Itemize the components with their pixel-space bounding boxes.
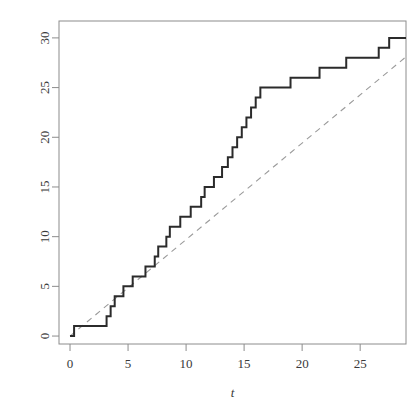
chart-canvas: 0510152025 051015202530 t [0, 0, 420, 410]
figure-panel: 0510152025 051015202530 t [0, 0, 420, 410]
plot-border [59, 21, 406, 344]
y-tick-label: 20 [38, 131, 53, 144]
axis-titles: t [231, 385, 235, 400]
x-tick-label: 5 [125, 356, 132, 371]
y-tick-label: 30 [38, 31, 53, 44]
x-tick-label: 20 [296, 356, 309, 371]
y-axis: 051015202530 [38, 31, 60, 339]
y-tick-label: 10 [38, 230, 53, 243]
y-tick-label: 5 [38, 283, 53, 290]
x-tick-label: 15 [238, 356, 251, 371]
cropped-title-remnant [0, 0, 420, 12]
x-tick-label: 0 [67, 356, 74, 371]
plot-frame [59, 21, 406, 344]
x-tick-label: 10 [180, 356, 193, 371]
y-tick-label: 15 [38, 180, 53, 193]
y-tick-label: 25 [38, 81, 53, 94]
reference-diagonal-line [70, 57, 406, 336]
x-axis: 0510152025 [67, 344, 367, 371]
y-tick-label: 0 [38, 333, 53, 340]
x-tick-label: 25 [354, 356, 367, 371]
step-function-line [70, 38, 406, 336]
x-axis-title: t [231, 385, 235, 400]
data-series [70, 38, 406, 336]
